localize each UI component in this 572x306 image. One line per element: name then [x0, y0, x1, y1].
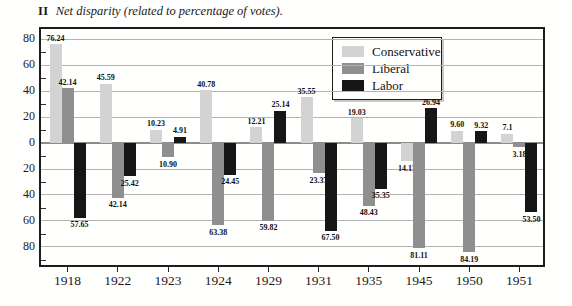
bar-liberal-1918 [62, 88, 74, 143]
y-axis-label--80: 80 [9, 239, 35, 254]
bar-labor-1929 [274, 111, 286, 144]
y-axis-label--40: 40 [9, 187, 35, 202]
y-minor-tick--10 [41, 156, 46, 157]
gridline-20 [41, 117, 543, 118]
bar-value-liberal-1935: 48.43 [360, 208, 378, 217]
bar-value-liberal-1922: 42.14 [109, 200, 127, 209]
x-axis-label-1931: 1931 [296, 273, 342, 289]
y-axis-label--60: 60 [9, 213, 35, 228]
bar-value-labor-1950: 9.32 [474, 121, 488, 130]
y-minor-tick--30 [41, 182, 46, 183]
legend-label-conservative: Conservative [372, 43, 441, 60]
bar-value-labor-1924: 24.45 [221, 177, 239, 186]
bar-value-labor-1951: 53.50 [522, 215, 540, 224]
x-tick-1951 [519, 267, 520, 272]
x-tick-1923 [168, 267, 169, 272]
bar-labor-1922 [124, 143, 136, 176]
bar-labor-1924 [224, 143, 236, 175]
x-tick-1950 [469, 267, 470, 272]
bar-value-conservative-1924: 40.78 [197, 80, 215, 89]
bar-value-labor-1931: 67.50 [322, 233, 340, 242]
y-minor-tick-50 [41, 78, 46, 79]
bar-conservative-1929 [250, 127, 262, 143]
bar-labor-1950 [475, 131, 487, 143]
bar-value-labor-1945: 26.94 [422, 98, 440, 107]
bar-liberal-1945 [413, 143, 425, 248]
bar-value-conservative-1929: 12.21 [247, 117, 265, 126]
x-axis-label-1935: 1935 [346, 273, 392, 289]
x-tick-1931 [318, 267, 319, 272]
bar-liberal-1950 [463, 143, 475, 252]
gridline-60 [41, 65, 543, 66]
bar-value-labor-1918: 57.65 [71, 220, 89, 229]
y-axis-label-20: 20 [9, 109, 35, 124]
figure-number: II [38, 4, 49, 18]
y-minor-tick--90 [41, 260, 46, 261]
page: IINet disparity (related to percentage o… [0, 0, 572, 306]
figure-title-text: Net disparity (related to percentage of … [56, 4, 283, 18]
bar-conservative-1950 [451, 131, 463, 143]
bar-value-conservative-1951: 7.1 [502, 123, 512, 132]
y-axis-label-80: 80 [9, 31, 35, 46]
bar-value-liberal-1918: 42.14 [59, 78, 77, 87]
bar-value-labor-1922: 25.42 [121, 179, 139, 188]
bar-liberal-1922 [112, 143, 124, 198]
bar-labor-1931 [325, 143, 337, 231]
bar-value-liberal-1951: 3.18 [512, 150, 526, 159]
legend-label-liberal: Liberal [372, 60, 410, 77]
bar-conservative-1945 [401, 143, 413, 161]
bar-value-conservative-1923: 10.23 [147, 119, 165, 128]
y-minor-tick-70 [41, 52, 46, 53]
bar-conservative-1935 [351, 118, 363, 143]
bar-labor-1923 [174, 137, 186, 143]
y-axis-label-40: 40 [9, 83, 35, 98]
gridline-80 [41, 39, 543, 40]
bar-liberal-1931 [313, 143, 325, 173]
legend-item-liberal: Liberal [342, 60, 435, 77]
bar-value-labor-1923: 4.91 [173, 126, 187, 135]
bar-labor-1951 [525, 143, 537, 212]
bar-labor-1945 [425, 108, 437, 143]
y-minor-tick--70 [41, 234, 46, 235]
y-minor-tick--50 [41, 208, 46, 209]
bar-value-labor-1929: 25.14 [271, 100, 289, 109]
y-minor-tick-10 [41, 130, 46, 131]
bar-labor-1918 [74, 143, 86, 218]
x-tick-1929 [268, 267, 269, 272]
bar-conservative-1922 [100, 84, 112, 143]
x-tick-1924 [218, 267, 219, 272]
bar-value-conservative-1922: 45.59 [97, 73, 115, 82]
x-axis-label-1922: 1922 [95, 273, 141, 289]
legend-item-conservative: Conservative [342, 43, 435, 60]
x-axis-label-1918: 1918 [45, 273, 91, 289]
bar-value-liberal-1945: 81.11 [410, 251, 428, 260]
bar-liberal-1929 [262, 143, 274, 221]
bar-value-conservative-1931: 35.55 [298, 87, 316, 96]
bar-value-conservative-1918: 76.24 [47, 34, 65, 43]
x-tick-1918 [67, 267, 68, 272]
bar-value-conservative-1935: 19.03 [348, 108, 366, 117]
bar-labor-1935 [375, 143, 387, 189]
x-tick-1935 [368, 267, 369, 272]
y-axis-label--20: 20 [9, 161, 35, 176]
x-axis-label-1923: 1923 [145, 273, 191, 289]
bar-liberal-1951 [513, 143, 525, 147]
bar-conservative-1924 [200, 90, 212, 143]
bar-value-conservative-1950: 9.60 [450, 120, 464, 129]
gridline-40 [41, 91, 543, 92]
legend-swatch-conservative [342, 46, 364, 57]
bar-value-labor-1935: 35.35 [372, 191, 390, 200]
x-tick-1922 [117, 267, 118, 272]
x-tick-1945 [419, 267, 420, 272]
plot-area: ConservativeLiberalLabor 76.2445.5910.23… [39, 27, 545, 267]
bar-value-liberal-1929: 59.82 [259, 223, 277, 232]
bar-conservative-1931 [301, 97, 313, 143]
x-axis-label-1929: 1929 [245, 273, 291, 289]
bar-liberal-1923 [162, 143, 174, 157]
y-axis-label-60: 60 [9, 57, 35, 72]
x-axis-label-1924: 1924 [195, 273, 241, 289]
bar-conservative-1951 [501, 134, 513, 143]
legend-swatch-labor [342, 80, 364, 91]
bar-value-liberal-1924: 63.38 [209, 228, 227, 237]
bar-value-liberal-1950: 84.19 [460, 255, 478, 264]
